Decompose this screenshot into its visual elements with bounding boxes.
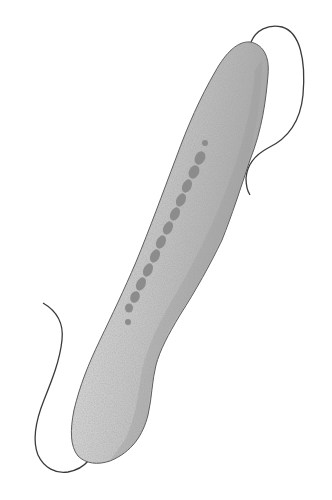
cell-body (60, 35, 280, 475)
cell-drawing (0, 0, 332, 500)
illustration-canvas (0, 0, 332, 500)
